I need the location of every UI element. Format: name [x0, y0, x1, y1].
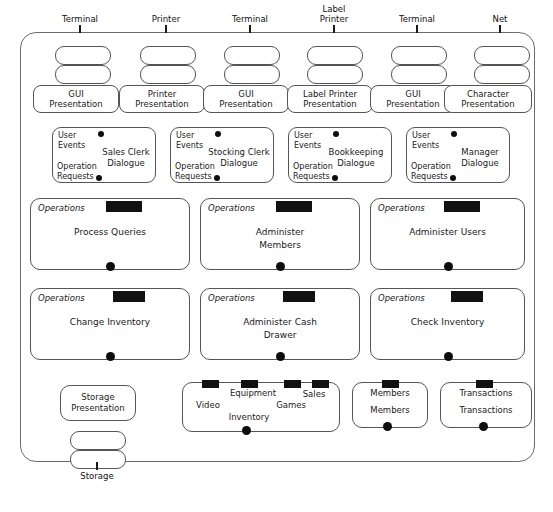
provided-interface-dot[interactable] [276, 262, 285, 271]
stereotype-redaction-block-2 [241, 380, 258, 388]
provided-interface-dot[interactable] [383, 422, 392, 431]
device-label: Label Printer [303, 4, 365, 24]
component-sales-clerk-dialogue[interactable]: User Events Operation Requests Sales Cle… [52, 127, 156, 183]
port-oval-upper-5[interactable] [391, 46, 447, 65]
device-stem [249, 25, 251, 33]
device-label: Net [470, 14, 530, 24]
device-stem [96, 462, 98, 470]
port-oval-upper-4[interactable] [307, 46, 363, 65]
provided-interface-dot[interactable] [106, 352, 115, 361]
port-oval-lower-1[interactable] [55, 65, 111, 84]
transactions-title: Transactions [441, 388, 531, 399]
stereotype-redaction-block [113, 291, 145, 302]
inventory-sublabel-games: Games [271, 400, 311, 411]
provided-interface-dot-top[interactable] [333, 131, 339, 137]
component-administer-members[interactable]: Operations Administer Members [200, 198, 360, 270]
operations-caption: Operations [38, 203, 85, 213]
storage-port-oval-upper[interactable] [70, 431, 126, 450]
port-oval-upper-3[interactable] [224, 46, 280, 65]
user-events-label: User Events [58, 131, 85, 150]
user-events-label: User Events [176, 131, 203, 150]
members-label: Members [353, 405, 427, 416]
device-stem [416, 25, 418, 33]
port-oval-lower-4[interactable] [307, 65, 363, 84]
component-transactions[interactable]: Transactions Transactions [440, 382, 532, 428]
component-bookkeeping-dialogue[interactable]: User Events Operation Requests Bookkeepi… [288, 127, 392, 183]
stereotype-redaction-block [382, 380, 399, 388]
inventory-sublabel-video: Video [189, 400, 227, 411]
port-oval-lower-2[interactable] [140, 65, 196, 84]
component-administer-cash-drawer[interactable]: Operations Administer Cash Drawer [200, 288, 360, 360]
external-device-terminal-3: Terminal [387, 14, 447, 33]
component-name: Check Inventory [371, 316, 524, 329]
provided-interface-dot[interactable] [242, 426, 251, 435]
component-label: Storage Presentation [61, 392, 135, 414]
component-name: Change Inventory [31, 316, 189, 329]
provided-interface-dot-top[interactable] [215, 131, 221, 137]
external-device-terminal-1: Terminal [50, 14, 110, 33]
operations-caption: Operations [378, 293, 425, 303]
component-name: Process Queries [31, 226, 189, 239]
device-label: Printer [136, 14, 196, 24]
provided-interface-dot[interactable] [444, 352, 453, 361]
port-oval-upper-6[interactable] [474, 46, 530, 65]
component-inventory[interactable]: Equipment Sales Video Games Inventory [182, 382, 340, 432]
component-administer-users[interactable]: Operations Administer Users [370, 198, 525, 270]
component-name: Administer Users [371, 226, 524, 239]
component-change-inventory[interactable]: Operations Change Inventory [30, 288, 190, 360]
component-process-queries[interactable]: Operations Process Queries [30, 198, 190, 270]
stereotype-redaction-block-3 [284, 380, 301, 388]
provided-interface-dot-bottom[interactable] [332, 175, 338, 181]
stereotype-redaction-block [444, 201, 480, 212]
component-gui-presentation-2[interactable]: GUI Presentation [203, 85, 289, 113]
stereotype-redaction-block [476, 380, 493, 388]
inventory-sublabel-equipment: Equipment [223, 388, 283, 399]
external-device-terminal-2: Terminal [220, 14, 280, 33]
component-gui-presentation-1[interactable]: GUI Presentation [33, 85, 119, 113]
device-stem [79, 25, 81, 33]
port-oval-lower-6[interactable] [474, 65, 530, 84]
component-printer-presentation[interactable]: Printer Presentation [119, 85, 205, 113]
device-label: Terminal [387, 14, 447, 24]
provided-interface-dot-bottom[interactable] [214, 175, 220, 181]
provided-interface-dot[interactable] [444, 262, 453, 271]
provided-interface-dot-top[interactable] [451, 131, 457, 137]
stereotype-redaction-block [106, 201, 142, 212]
stereotype-redaction-block [451, 291, 483, 302]
dialogue-name: Stocking Clerk Dialogue [204, 147, 274, 168]
inventory-sublabel-sales: Sales [295, 389, 333, 400]
operation-requests-label: Operation Requests [57, 162, 97, 181]
stereotype-redaction-block-4 [312, 380, 329, 388]
provided-interface-dot[interactable] [276, 352, 285, 361]
component-members[interactable]: Members Members [352, 382, 428, 428]
component-character-presentation[interactable]: Character Presentation [444, 85, 532, 113]
operations-caption: Operations [378, 203, 425, 213]
component-name: Administer Cash Drawer [201, 316, 359, 342]
port-oval-upper-1[interactable] [55, 46, 111, 65]
component-name: Administer Members [201, 226, 359, 252]
inventory-main-label: Inventory [219, 412, 279, 423]
port-oval-upper-2[interactable] [140, 46, 196, 65]
device-stem [333, 25, 335, 33]
stereotype-redaction-block-1 [202, 380, 219, 388]
stereotype-redaction-block [276, 201, 312, 212]
provided-interface-dot-bottom[interactable] [96, 175, 102, 181]
component-manager-dialogue[interactable]: User Events Operation Requests Manager D… [406, 127, 510, 183]
user-events-label: User Events [294, 131, 321, 150]
provided-interface-dot[interactable] [479, 422, 488, 431]
stereotype-redaction-block [283, 291, 315, 302]
dialogue-name: Sales Clerk Dialogue [97, 147, 155, 168]
provided-interface-dot-top[interactable] [98, 131, 104, 137]
port-oval-lower-3[interactable] [224, 65, 280, 84]
component-check-inventory[interactable]: Operations Check Inventory [370, 288, 525, 360]
device-label: Terminal [50, 14, 110, 24]
operations-caption: Operations [38, 293, 85, 303]
component-storage-presentation[interactable]: Storage Presentation [60, 385, 136, 421]
external-device-storage: Storage [67, 461, 127, 481]
component-stocking-clerk-dialogue[interactable]: User Events Operation Requests Stocking … [170, 127, 274, 183]
component-label-printer-presentation[interactable]: Label Printer Presentation [287, 85, 373, 113]
operation-requests-label: Operation Requests [411, 162, 451, 181]
port-oval-lower-5[interactable] [391, 65, 447, 84]
provided-interface-dot[interactable] [106, 262, 115, 271]
provided-interface-dot-bottom[interactable] [450, 175, 456, 181]
